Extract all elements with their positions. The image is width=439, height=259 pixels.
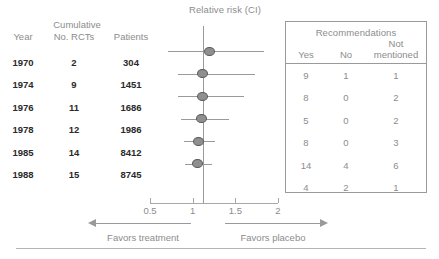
axis-tick-label: 0.5	[143, 205, 156, 216]
point-estimate-marker	[197, 92, 208, 101]
not-mentioned-line1: Not	[389, 38, 404, 49]
study-table-header-row: Year No. RCTs Patients	[0, 31, 160, 51]
confidence-interval-line	[178, 74, 255, 75]
table-row: 502	[286, 109, 426, 132]
axis-tick	[278, 198, 279, 203]
cell-not-mentioned: 2	[366, 87, 426, 110]
table-row: 1985148412	[0, 141, 160, 164]
cell-yes: 9	[286, 64, 326, 87]
forest-plot-figure: Relative risk (CI) Cumulative Year No. R…	[0, 0, 439, 259]
column-header-rcts: No. RCTs	[46, 31, 102, 51]
cell-rcts: 12	[46, 119, 102, 142]
cell-rcts: 11	[46, 96, 102, 119]
cell-no: 4	[326, 154, 366, 177]
column-header-no: No	[326, 38, 366, 64]
axis-tick-label: 1	[190, 205, 195, 216]
table-row: 803	[286, 132, 426, 155]
cell-no: 0	[326, 132, 366, 155]
cell-no: 0	[326, 109, 366, 132]
table-row: 911	[286, 64, 426, 87]
point-estimate-marker	[196, 114, 207, 123]
ci-row	[150, 130, 290, 153]
cell-not-mentioned: 1	[366, 64, 426, 87]
cell-no: 1	[326, 64, 366, 87]
study-table-grid: Year No. RCTs Patients 19702304197491451…	[0, 31, 160, 186]
cell-rcts: 15	[46, 164, 102, 187]
recommendations-panel: Recommendations Yes No Not mentioned 911…	[285, 21, 427, 193]
cell-yes: 14	[286, 154, 326, 177]
x-axis-line	[150, 203, 278, 204]
bottom-divider	[16, 248, 426, 249]
ci-row	[150, 153, 290, 176]
ci-row	[150, 108, 290, 131]
cumulative-group-header: Cumulative	[46, 18, 108, 31]
table-row: 197491451	[0, 74, 160, 97]
cell-year: 1970	[0, 51, 46, 74]
point-estimate-marker	[197, 69, 208, 78]
cell-yes: 8	[286, 87, 326, 110]
table-row: 1446	[286, 154, 426, 177]
cell-not-mentioned: 2	[366, 109, 426, 132]
column-header-year: Year	[0, 31, 46, 51]
not-mentioned-line2: mentioned	[374, 49, 418, 60]
forest-plot-area	[150, 18, 290, 204]
favors-treatment-label: Favors treatment	[88, 232, 198, 243]
recommendations-header-row: Yes No Not mentioned	[286, 38, 426, 64]
left-arrow-icon	[88, 219, 198, 229]
study-table: Cumulative Year No. RCTs Patients 197023…	[0, 18, 160, 186]
axis-tick	[150, 198, 151, 203]
plot-title: Relative risk (CI)	[160, 4, 290, 15]
cell-year: 1985	[0, 141, 46, 164]
right-arrow-icon	[218, 219, 328, 229]
cell-rcts: 9	[46, 74, 102, 97]
recommendations-title: Recommendations	[286, 22, 426, 38]
cell-year: 1988	[0, 164, 46, 187]
cell-no: 2	[326, 177, 366, 200]
axis-tick-label: 2	[275, 205, 280, 216]
ci-row	[150, 40, 290, 63]
axis-tick	[193, 198, 194, 203]
ci-row	[150, 63, 290, 86]
cell-not-mentioned: 3	[366, 132, 426, 155]
favors-placebo-annotation: Favors placebo	[218, 219, 328, 243]
favors-placebo-label: Favors placebo	[218, 232, 328, 243]
cell-year: 1978	[0, 119, 46, 142]
cell-not-mentioned: 6	[366, 154, 426, 177]
confidence-interval-line	[168, 51, 264, 52]
axis-tick-label: 1.5	[229, 205, 242, 216]
cell-not-mentioned: 1	[366, 177, 426, 200]
cell-rcts: 14	[46, 141, 102, 164]
point-estimate-marker	[204, 47, 215, 56]
cell-yes: 5	[286, 109, 326, 132]
cell-no: 0	[326, 87, 366, 110]
cell-rcts: 2	[46, 51, 102, 74]
cell-year: 1976	[0, 96, 46, 119]
ci-row	[150, 85, 290, 108]
cell-yes: 8	[286, 132, 326, 155]
confidence-interval-line	[178, 96, 244, 97]
axis-tick	[235, 198, 236, 203]
recommendations-table: Yes No Not mentioned 9118025028031446421	[286, 38, 426, 199]
favors-treatment-annotation: Favors treatment	[88, 219, 198, 243]
table-row: 1978121986	[0, 119, 160, 142]
table-row: 1976111686	[0, 96, 160, 119]
cell-yes: 4	[286, 177, 326, 200]
table-row: 802	[286, 87, 426, 110]
column-header-yes: Yes	[286, 38, 326, 64]
table-row: 1988158745	[0, 164, 160, 187]
column-header-not-mentioned: Not mentioned	[366, 38, 426, 64]
table-row: 19702304	[0, 51, 160, 74]
point-estimate-marker	[192, 159, 203, 168]
table-row: 421	[286, 177, 426, 200]
point-estimate-marker	[193, 137, 204, 146]
cell-year: 1974	[0, 74, 46, 97]
